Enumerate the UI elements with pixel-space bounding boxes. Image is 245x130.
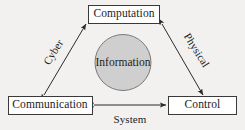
node-box-computation (89, 6, 160, 24)
node-box-communication (9, 97, 93, 115)
edge-physical-line (162, 24, 203, 95)
node-box-control (169, 97, 237, 115)
edge-cyber-line (44, 24, 86, 95)
cps-triangle-diagram: Computation Communication Control Inform… (0, 0, 245, 130)
diagram-canvas (0, 0, 245, 130)
information-hub-circle (95, 35, 151, 91)
